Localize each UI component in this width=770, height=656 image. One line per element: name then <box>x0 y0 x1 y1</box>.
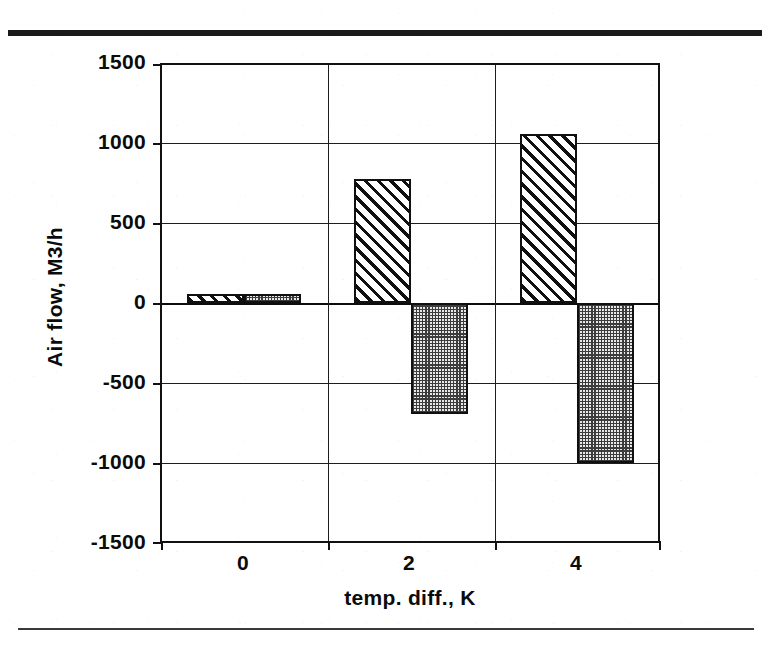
ytick-label-500: 500 <box>6 210 146 234</box>
bar-series1-cat4 <box>520 134 577 303</box>
bar-chart-figure: 1500 1000 500 0 -500 -1000 -1500 Air flo… <box>0 0 770 656</box>
plot-area <box>160 63 660 543</box>
gridline-y-neg1000 <box>162 463 658 464</box>
xtick-label-0: 0 <box>183 551 303 575</box>
bar-series2-cat0 <box>244 294 301 303</box>
gridline-y-1000 <box>162 143 658 144</box>
top-horizontal-rule <box>8 30 762 36</box>
xtick-label-4: 4 <box>516 551 636 575</box>
ytick-mark-1000 <box>153 143 162 145</box>
bottom-horizontal-rule <box>18 628 754 630</box>
xtick-mark-right-edge <box>659 541 661 550</box>
ytick-mark-neg1000 <box>153 463 162 465</box>
bar-series2-cat4 <box>577 303 634 463</box>
gridline-x-2 <box>495 65 496 541</box>
y-axis-title: Air flow, M3/h <box>43 187 67 407</box>
xtick-mark-left-edge <box>161 541 163 550</box>
bar-series1-cat2 <box>354 179 411 303</box>
ytick-label-0: 0 <box>6 290 146 314</box>
xtick-mark-1 <box>328 541 330 550</box>
ytick-mark-0 <box>153 303 162 305</box>
ytick-mark-neg500 <box>153 383 162 385</box>
gridline-x-1 <box>328 65 329 541</box>
ytick-mark-500 <box>153 223 162 225</box>
ytick-label-1000: 1000 <box>6 130 146 154</box>
ytick-label-1500: 1500 <box>6 50 146 74</box>
bar-series2-cat2 <box>411 303 468 414</box>
ytick-label-neg1500: -1500 <box>6 530 146 554</box>
xtick-mark-2 <box>495 541 497 550</box>
x-axis-title: temp. diff., K <box>160 586 660 610</box>
ytick-label-neg500: -500 <box>6 370 146 394</box>
ytick-mark-1500 <box>153 64 162 66</box>
ytick-label-neg1000: -1000 <box>6 450 146 474</box>
bar-series1-cat0 <box>187 294 244 303</box>
xtick-label-2: 2 <box>349 551 469 575</box>
